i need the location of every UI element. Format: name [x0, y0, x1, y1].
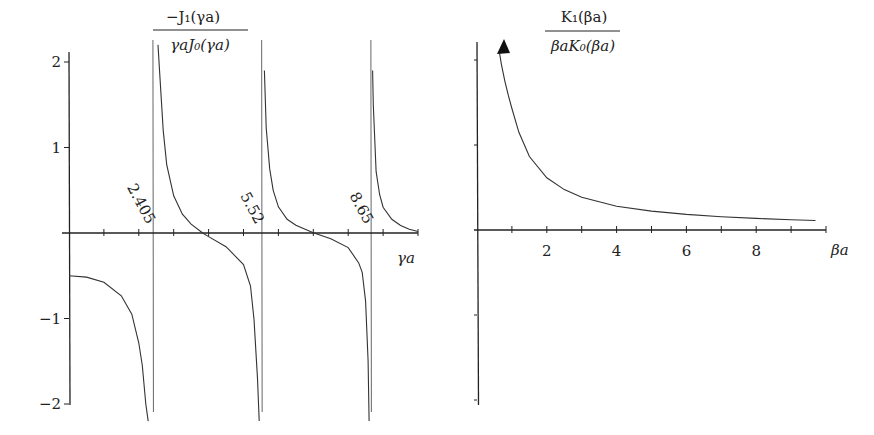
x-tick-label: 2 [542, 242, 552, 260]
right-labels: 2468 [542, 242, 761, 260]
chart-canvas: 21−1−22.4055.528.65 −J₁(γa) γaJ₀(γa) γa … [0, 0, 874, 435]
y-tick-label: −1 [39, 310, 61, 328]
right-title: K₁(βa) βaK₀(βa) [545, 8, 620, 55]
y-axis [477, 42, 479, 405]
right-curves [499, 52, 815, 221]
y-tick-label: 1 [51, 139, 61, 157]
x-tick-label: 4 [612, 242, 622, 260]
y-tick-label: −2 [39, 395, 61, 413]
asymptote-line [153, 40, 154, 412]
asymptote-label: 8.65 [346, 189, 378, 227]
arrow-up-icon [497, 39, 510, 54]
left-title: −J₁(γa) γaJ₀(γa) [153, 8, 248, 54]
y-axis [69, 52, 70, 405]
left-plot: 21−1−22.4055.528.65 −J₁(γa) γaJ₀(γa) γa [39, 8, 418, 421]
right-title-numerator: K₁(βa) [561, 8, 608, 26]
right-xlabel: βa [830, 241, 849, 259]
curve-K-ratio [499, 52, 815, 221]
y-tick-label: 2 [51, 53, 61, 71]
curve-branch-1 [69, 276, 148, 421]
right-plot: 2468 K₁(βa) βaK₀(βa) βa [474, 8, 849, 405]
asymptote-label: 2.405 [123, 181, 159, 227]
x-tick-label: 8 [751, 242, 761, 260]
asymptote-lines [153, 40, 371, 412]
left-xlabel: γa [397, 249, 415, 267]
right-axes [474, 42, 826, 405]
asymptote-line [262, 40, 263, 412]
left-title-numerator: −J₁(γa) [166, 8, 220, 26]
x-tick-label: 6 [682, 242, 692, 260]
curve-branch-3 [264, 71, 369, 422]
curve-branch-4 [373, 71, 418, 232]
asymptote-label: 5.52 [236, 189, 268, 227]
asymptote-line [371, 40, 372, 412]
left-axes [62, 52, 418, 405]
left-title-denominator: γaJ₀(γa) [170, 36, 230, 54]
right-title-denominator: βaK₀(βa) [550, 37, 615, 55]
